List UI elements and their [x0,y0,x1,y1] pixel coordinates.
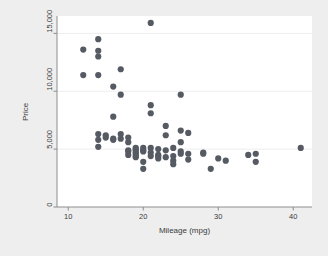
x-tick-label-2: 30 [214,213,222,221]
scatter-plot-figure: 10203040 05,00010,00015,000 Mileage (mpg… [0,0,328,256]
y-axis-title: Price [22,102,30,120]
axes-layer [0,0,328,256]
x-axis-title: Mileage (mpg) [159,227,210,235]
x-tick-label-1: 20 [139,213,147,221]
x-tick-label-3: 40 [289,213,297,221]
x-tick-label-0: 10 [64,213,72,221]
